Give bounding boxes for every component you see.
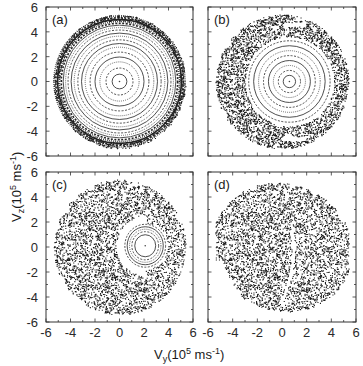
panel-c xyxy=(54,180,187,315)
svg-text:4: 4 xyxy=(328,325,335,340)
panel-label-d: (d) xyxy=(214,177,230,192)
svg-text:-2: -2 xyxy=(26,265,38,280)
scatter-points xyxy=(215,183,349,313)
fixed-point xyxy=(144,245,146,247)
fixed-point xyxy=(289,81,291,83)
x-tick-labels-left: -6 -4 -2 0 2 4 6 xyxy=(40,325,196,340)
svg-text:-4: -4 xyxy=(26,124,38,139)
svg-text:-6: -6 xyxy=(40,325,52,340)
svg-text:2: 2 xyxy=(31,215,38,230)
x-axis-title: Vy(105 ms-1) xyxy=(154,346,224,364)
svg-text:0: 0 xyxy=(116,325,123,340)
svg-text:6: 6 xyxy=(352,325,359,340)
panel-a xyxy=(53,15,186,150)
svg-text:-2: -2 xyxy=(252,325,264,340)
fixed-point xyxy=(119,81,121,83)
svg-text:-6: -6 xyxy=(202,325,214,340)
scatter-points xyxy=(54,180,187,315)
panel-label-c: (c) xyxy=(52,177,67,192)
poincare-figure: (a) (b) (c) (d) 6 4 2 0 -2 -4 -6 6 4 2 0… xyxy=(0,0,363,366)
svg-text:4: 4 xyxy=(165,325,172,340)
svg-text:6: 6 xyxy=(31,165,38,180)
svg-text:-6: -6 xyxy=(26,149,38,164)
panel-label-b: (b) xyxy=(214,12,230,27)
svg-text:-4: -4 xyxy=(26,290,38,305)
svg-text:0: 0 xyxy=(278,325,285,340)
x-tick-labels-right: -6 -4 -2 0 2 4 6 xyxy=(202,325,359,340)
panel-d xyxy=(215,183,349,313)
svg-text:4: 4 xyxy=(31,190,38,205)
svg-text:6: 6 xyxy=(189,325,196,340)
svg-text:2: 2 xyxy=(31,50,38,65)
svg-text:0: 0 xyxy=(31,240,38,255)
scatter-points xyxy=(216,15,350,150)
y-axis-title: Vz(105 ms-1) xyxy=(8,152,26,222)
svg-text:2: 2 xyxy=(303,325,310,340)
panel-label-a: (a) xyxy=(52,12,68,27)
svg-text:Vy(105 ms-1): Vy(105 ms-1) xyxy=(154,346,224,364)
svg-text:-4: -4 xyxy=(65,325,77,340)
y-tick-labels-top: 6 4 2 0 -2 -4 -6 xyxy=(26,0,38,164)
svg-text:4: 4 xyxy=(31,25,38,40)
y-tick-labels-bottom: 6 4 2 0 -2 -4 -6 xyxy=(26,165,38,330)
svg-text:-4: -4 xyxy=(227,325,239,340)
svg-text:2: 2 xyxy=(140,325,147,340)
svg-text:6: 6 xyxy=(31,0,38,15)
svg-text:-2: -2 xyxy=(89,325,101,340)
svg-text:-2: -2 xyxy=(26,99,38,114)
svg-text:Vz(105 ms-1): Vz(105 ms-1) xyxy=(8,152,26,222)
panel-b xyxy=(216,15,350,150)
svg-text:0: 0 xyxy=(31,74,38,89)
svg-text:-6: -6 xyxy=(26,315,38,330)
